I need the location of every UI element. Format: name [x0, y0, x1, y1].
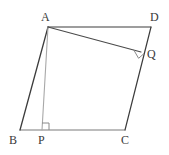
- vertex-label-P: P: [38, 134, 45, 146]
- diagram-canvas: [0, 0, 169, 155]
- segment-altitude-AP: [42, 27, 48, 130]
- segment-side-AB: [20, 27, 48, 130]
- geometry-diagram: A D Q B P C: [0, 0, 169, 155]
- vertex-label-C: C: [121, 134, 129, 146]
- vertex-label-D: D: [150, 11, 159, 23]
- right-angle-at-P-icon: [42, 123, 49, 130]
- vertex-label-B: B: [9, 134, 17, 146]
- vertex-label-Q: Q: [147, 48, 156, 60]
- segment-side-DC: [125, 27, 151, 130]
- vertex-label-A: A: [41, 11, 50, 23]
- segment-altitude-AQ: [48, 27, 141, 52]
